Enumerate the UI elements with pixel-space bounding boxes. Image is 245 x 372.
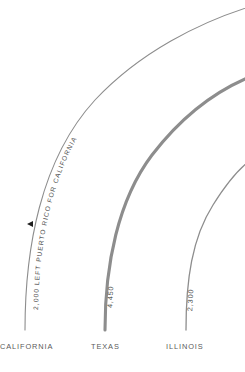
flow-curves-svg: 2,000 LEFT PUERTO RICO FOR CALIFORNIA 4,… xyxy=(0,0,245,372)
clipped-text-fragment-top: s xyxy=(0,60,4,71)
axis-label-california: CALIFORNIA xyxy=(0,343,53,350)
annotation-texas-text: 4,450 xyxy=(105,285,115,308)
axis-label-illinois: ILLINOIS xyxy=(166,343,204,350)
annotation-illinois-text: 2,300 xyxy=(185,288,195,311)
curve-illinois xyxy=(186,158,245,330)
clipped-text-fragment-second: ng xyxy=(0,72,5,88)
axis-label-texas: TEXAS xyxy=(91,343,120,350)
clipped-text-fragment-third: . xyxy=(0,147,2,157)
chart-canvas: 2,000 LEFT PUERTO RICO FOR CALIFORNIA 4,… xyxy=(0,0,245,372)
annotation-marker-triangle-icon xyxy=(27,221,33,227)
annotation-texas: 4,450 xyxy=(105,285,115,308)
annotation-illinois: 2,300 xyxy=(185,288,195,311)
curve-texas xyxy=(105,76,245,330)
